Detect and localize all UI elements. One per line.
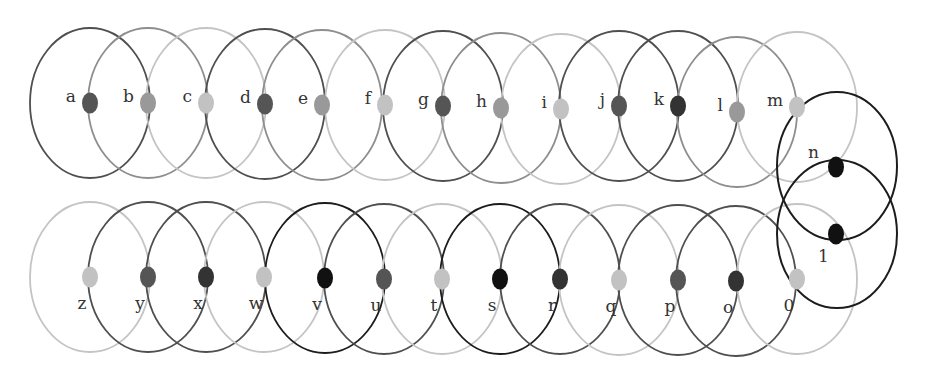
node-dot-s — [492, 269, 508, 290]
node-dot-v — [317, 268, 333, 289]
node-dot-t — [434, 269, 450, 290]
node-label-a: a — [66, 86, 76, 106]
node-dot-f — [377, 95, 393, 116]
node-dot-i — [553, 99, 569, 120]
node-label-y: y — [134, 293, 145, 313]
ring-chain-svg: abcdefghijklmzyxwvutsrqpo0n1 — [0, 0, 931, 376]
node-label-t: t — [431, 295, 438, 315]
node-dot-k — [670, 96, 686, 117]
node-label-x: x — [193, 293, 203, 313]
node-label-u: u — [371, 295, 382, 315]
node-label-c: c — [182, 86, 192, 106]
node-dot-c — [198, 93, 214, 114]
dots-layer — [82, 93, 844, 292]
node-label-r: r — [548, 295, 557, 315]
node-label-0: 0 — [784, 295, 795, 315]
node-label-j: j — [598, 89, 605, 109]
node-dot-o — [728, 271, 744, 292]
node-label-b: b — [123, 86, 134, 106]
node-dot-z — [82, 267, 98, 288]
node-dot-x — [198, 267, 214, 288]
node-label-g: g — [418, 89, 429, 109]
node-dot-0 — [789, 269, 805, 290]
node-label-z: z — [78, 293, 87, 313]
node-dot-a — [82, 93, 98, 114]
node-dot-m — [789, 97, 805, 118]
node-dot-e — [314, 95, 330, 116]
node-dot-b — [140, 93, 156, 114]
node-label-m: m — [767, 90, 783, 110]
node-dot-n — [828, 157, 844, 178]
node-label-s: s — [488, 295, 497, 315]
node-dot-1 — [828, 224, 844, 245]
node-label-f: f — [365, 88, 373, 108]
node-dot-g — [435, 96, 451, 117]
node-dot-y — [140, 267, 156, 288]
node-label-w: w — [249, 293, 264, 313]
node-dot-p — [670, 270, 686, 291]
node-dot-h — [493, 98, 509, 119]
node-dot-q — [611, 270, 627, 291]
node-label-v: v — [311, 294, 322, 314]
letter-ring-diagram: abcdefghijklmzyxwvutsrqpo0n1 — [0, 0, 931, 376]
node-label-l: l — [718, 95, 723, 115]
node-label-p: p — [665, 296, 676, 316]
node-label-n: n — [808, 142, 819, 162]
node-dot-w — [256, 267, 272, 288]
node-dot-l — [729, 102, 745, 123]
node-label-k: k — [654, 89, 665, 109]
node-label-1: 1 — [818, 246, 829, 266]
node-dot-d — [257, 94, 273, 115]
node-label-h: h — [476, 91, 487, 111]
node-dot-r — [552, 269, 568, 290]
node-dot-u — [376, 269, 392, 290]
node-dot-j — [611, 96, 627, 117]
node-label-i: i — [542, 92, 548, 112]
node-label-e: e — [298, 88, 308, 108]
node-label-o: o — [723, 297, 733, 317]
node-label-q: q — [606, 296, 617, 316]
rings-layer — [30, 28, 897, 356]
node-label-d: d — [240, 87, 251, 107]
